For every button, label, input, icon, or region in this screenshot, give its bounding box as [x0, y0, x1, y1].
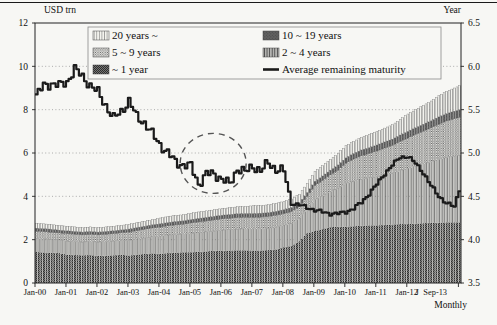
- legend-item-gray-vertical-lines: 2 ~ 4 years: [263, 46, 330, 58]
- svg-text:2 ~ 4 years: 2 ~ 4 years: [282, 46, 330, 58]
- legend-item-light-dotted: 5 ~ 9 years: [93, 46, 160, 58]
- svg-text:4.5: 4.5: [468, 192, 480, 202]
- svg-text:5 ~ 9 years: 5 ~ 9 years: [112, 46, 160, 58]
- svg-text:2: 2: [23, 235, 28, 245]
- legend: 20 years ~10 ~ 19 years5 ~ 9 years2 ~ 4 …: [88, 27, 441, 79]
- chart-canvas: USD trnYear0246810123.54.04.55.05.56.06.…: [0, 0, 497, 325]
- svg-text:Year: Year: [443, 5, 461, 15]
- svg-text:Jan-00: Jan-00: [24, 288, 46, 297]
- svg-text:6.0: 6.0: [468, 62, 480, 72]
- svg-text:Jan-07: Jan-07: [241, 288, 263, 297]
- top-rule-line: [0, 2, 497, 3]
- svg-text:8: 8: [23, 105, 28, 115]
- svg-text:6.5: 6.5: [468, 18, 480, 28]
- svg-text:20 years ~: 20 years ~: [112, 29, 158, 41]
- svg-text:Jan-09: Jan-09: [303, 288, 325, 297]
- stacked-bars: [35, 86, 460, 283]
- svg-text:USD trn: USD trn: [44, 5, 76, 15]
- svg-text:Jan-05: Jan-05: [179, 288, 201, 297]
- svg-text:Jan-02: Jan-02: [86, 288, 108, 297]
- svg-text:0: 0: [23, 278, 28, 288]
- svg-text:3.5: 3.5: [468, 278, 480, 288]
- svg-text:5.5: 5.5: [468, 105, 480, 115]
- legend-item-dark-checker: ~ 1 year: [93, 63, 148, 75]
- svg-text:Sep-13: Sep-13: [423, 288, 447, 297]
- svg-text:5.0: 5.0: [468, 148, 480, 158]
- svg-text:4.0: 4.0: [468, 235, 480, 245]
- svg-text:10: 10: [19, 62, 29, 72]
- svg-text:6: 6: [23, 148, 28, 158]
- svg-text:10 ~ 19 years: 10 ~ 19 years: [282, 29, 341, 41]
- svg-text:Jan-01: Jan-01: [55, 288, 77, 297]
- svg-text:4: 4: [23, 192, 28, 202]
- svg-text:Jan-10: Jan-10: [334, 288, 356, 297]
- svg-text:Average remaining maturity: Average remaining maturity: [282, 63, 406, 75]
- svg-text:J: J: [415, 288, 419, 297]
- svg-text:Monthly: Monthly: [434, 300, 467, 310]
- svg-text:Jan-06: Jan-06: [210, 288, 232, 297]
- chart-figure: USD trnYear0246810123.54.04.55.05.56.06.…: [0, 0, 497, 325]
- svg-text:12: 12: [19, 18, 29, 28]
- svg-text:Jan-03: Jan-03: [117, 288, 139, 297]
- svg-text:Jan-08: Jan-08: [272, 288, 294, 297]
- legend-item-dark-gray: 10 ~ 19 years: [263, 29, 341, 41]
- svg-text:~ 1 year: ~ 1 year: [112, 63, 148, 75]
- legend-item-line: Average remaining maturity: [263, 63, 406, 75]
- svg-text:Jan-11: Jan-11: [365, 288, 387, 297]
- svg-text:Jan-04: Jan-04: [148, 288, 171, 297]
- legend-item-white-vertical-lines: 20 years ~: [93, 29, 158, 41]
